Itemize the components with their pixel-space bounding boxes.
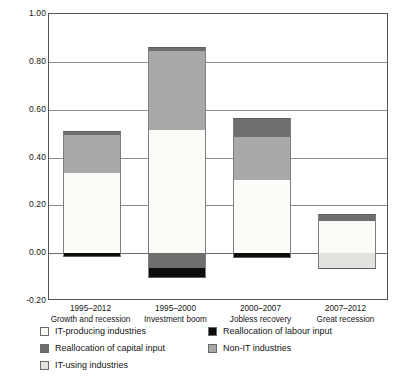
legend-item[interactable]: Reallocation of labour input	[208, 326, 332, 337]
bar-segment-capital	[318, 214, 376, 221]
x-label-name: Great recession	[292, 314, 400, 325]
y-axis-tick-label: 0.60	[6, 105, 46, 114]
y-axis-tick-label: 0.40	[6, 153, 46, 162]
bar-2	[148, 14, 206, 301]
legend-item[interactable]: IT-using industries	[40, 360, 128, 371]
bar-segment-labour	[63, 253, 121, 257]
bar-segment-capital	[148, 253, 206, 267]
legend-swatch-nonit	[208, 344, 217, 353]
legend-label: Non-IT industries	[223, 343, 291, 354]
legend-label: IT-producing industries	[55, 326, 146, 337]
bar-segment-labour	[233, 253, 291, 258]
legend-item[interactable]: Non-IT industries	[208, 343, 291, 354]
legend-swatch-capital	[40, 344, 49, 353]
legend-item[interactable]: IT-producing industries	[40, 326, 146, 337]
legend-swatch-labour	[208, 327, 217, 336]
bar-segment-nonit	[148, 51, 206, 130]
legend-row: Reallocation of capital inputNon-IT indu…	[40, 343, 380, 360]
y-axis-tick-label: 0.00	[6, 248, 46, 257]
x-axis-label-4: 2007–2012Great recession	[292, 303, 400, 325]
bar-segment-nonit	[63, 135, 121, 173]
legend-row: IT-producing industriesReallocation of l…	[40, 326, 380, 343]
y-axis-tick-label: 0.80	[6, 57, 46, 66]
bar-segment-itprod	[318, 221, 376, 253]
plot-area	[48, 13, 388, 300]
bar-3	[233, 14, 291, 301]
bar-segment-itprod	[148, 130, 206, 253]
bar-segment-nonit	[233, 137, 291, 180]
x-label-period: 2007–2012	[292, 303, 400, 314]
bar-segment-capital	[148, 47, 206, 51]
bar-segment-labour	[148, 268, 206, 279]
bar-segment-itprod	[233, 180, 291, 253]
bar-1	[63, 14, 121, 301]
bar-segment-itusing	[318, 253, 376, 269]
legend-row: IT-using industries	[40, 360, 380, 377]
legend-swatch-itusing	[40, 361, 49, 370]
bar-4	[318, 14, 376, 301]
legend-label: IT-using industries	[55, 360, 128, 371]
y-axis-tick-label: 1.00	[6, 9, 46, 18]
bar-segment-itprod	[63, 173, 121, 253]
chart-figure: 1.000.800.600.400.200.00-0.20 1995–2012G…	[0, 0, 401, 386]
legend: IT-producing industriesReallocation of l…	[40, 326, 380, 377]
legend-label: Reallocation of capital input	[55, 343, 165, 354]
legend-swatch-itprod	[40, 327, 49, 336]
legend-item[interactable]: Reallocation of capital input	[40, 343, 165, 354]
y-axis-tick-label: 0.20	[6, 200, 46, 209]
bar-segment-capital	[233, 118, 291, 137]
legend-label: Reallocation of labour input	[223, 326, 332, 337]
bar-segment-capital	[63, 131, 121, 135]
